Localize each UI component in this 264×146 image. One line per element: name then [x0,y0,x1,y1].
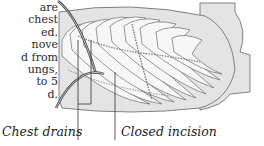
chest-drains-label: Chest drains [2,124,82,139]
closed-incision-label: Closed incision [121,124,217,139]
